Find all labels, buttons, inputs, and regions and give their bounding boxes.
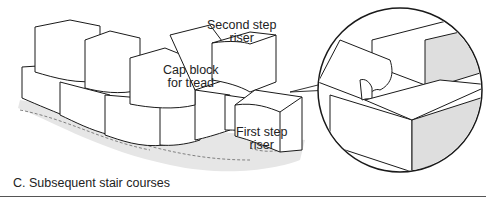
divider xyxy=(0,196,486,197)
label-line: riser xyxy=(207,32,277,45)
label-first-step-riser: First step riser xyxy=(236,126,287,152)
label-line: riser xyxy=(236,139,287,152)
label-line: for tread xyxy=(163,77,219,90)
label-cap-block: Cap block for tread xyxy=(163,64,219,90)
label-second-step-riser: Second step riser xyxy=(207,19,277,45)
figure-caption: C. Subsequent stair courses xyxy=(13,176,170,190)
